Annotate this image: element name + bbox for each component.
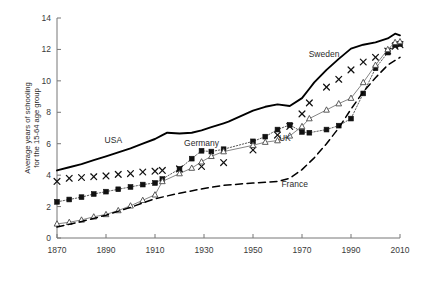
x-tick-label: 1950 <box>244 245 263 255</box>
series-marker-germany <box>67 197 72 202</box>
series-marker-germany <box>275 127 280 132</box>
series-marker-germany <box>140 182 145 187</box>
y-tick-label: 2 <box>46 202 51 212</box>
y-axis-title-line-1: Average years of schooling <box>23 82 32 173</box>
series-marker-uk <box>324 107 330 112</box>
chart-series-layer <box>54 34 403 227</box>
series-marker-germany <box>307 130 312 135</box>
x-axis-ticklabels: 18701890191019301950197019902010 <box>48 245 410 255</box>
series-marker-germany <box>349 116 354 121</box>
series-line-usa <box>57 34 400 171</box>
series-usa <box>57 34 400 171</box>
series-line-uk <box>57 42 400 224</box>
series-marker-germany <box>116 187 121 192</box>
annotation-usa: USA <box>105 135 123 145</box>
y-tick-label: 10 <box>42 76 52 86</box>
series-marker-uk <box>152 192 158 197</box>
x-tick-label: 1990 <box>342 245 361 255</box>
series-marker-uk <box>199 159 205 164</box>
x-tick-label: 1910 <box>146 245 165 255</box>
x-tick-label: 1870 <box>48 245 67 255</box>
y-axis-ticklabels: 02468101214 <box>42 13 52 243</box>
series-marker-uk <box>336 101 342 106</box>
series-marker-germany <box>189 156 194 161</box>
chart-canvas: Average years of schoolingfor the 15-64 … <box>0 0 424 281</box>
x-tick-label: 1970 <box>293 245 312 255</box>
y-tick-label: 6 <box>46 139 51 149</box>
y-tick-label: 4 <box>46 170 51 180</box>
series-marker-germany <box>91 192 96 197</box>
series-sweden <box>54 42 403 185</box>
x-tick-label: 1890 <box>97 245 116 255</box>
y-tick-label: 8 <box>46 107 51 117</box>
x-tick-label: 1930 <box>195 245 214 255</box>
series-marker-germany <box>199 148 204 153</box>
series-marker-uk <box>189 165 195 170</box>
annotation-uk: UK <box>279 133 291 143</box>
y-tick-label: 12 <box>42 44 52 54</box>
chart-figure: Average years of schoolingfor the 15-64 … <box>0 0 424 281</box>
annotation-france: France <box>281 179 308 189</box>
series-marker-germany <box>300 130 305 135</box>
y-axis-title-line-2: for the 15-64 age group <box>32 88 41 167</box>
x-tick-label: 2010 <box>391 245 410 255</box>
series-germany <box>55 42 403 205</box>
series-marker-uk <box>307 115 313 120</box>
series-marker-germany <box>128 185 133 190</box>
series-uk <box>54 38 403 226</box>
y-tick-label: 0 <box>46 233 51 243</box>
series-marker-germany <box>153 181 158 186</box>
y-tick-label: 14 <box>42 13 52 23</box>
series-marker-uk <box>397 38 403 43</box>
series-marker-germany <box>324 127 329 132</box>
y-axis-title: Average years of schoolingfor the 15-64 … <box>23 82 41 173</box>
series-marker-germany <box>287 122 292 127</box>
annotation-sweden: Sweden <box>309 49 340 59</box>
series-marker-uk <box>140 197 146 202</box>
series-marker-germany <box>104 189 109 194</box>
series-marker-germany <box>55 199 60 204</box>
annotation-germany: Germany <box>184 138 220 148</box>
series-marker-germany <box>79 195 84 200</box>
